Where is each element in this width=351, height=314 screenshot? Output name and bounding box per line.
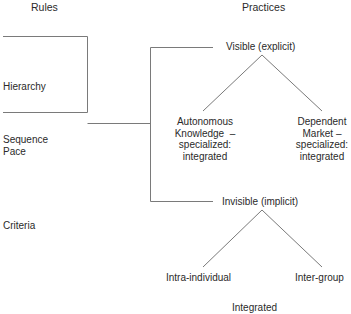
- rules-header: Rules: [31, 2, 58, 14]
- autonomous-line1: Autonomous: [175, 116, 236, 128]
- invisible-implicit-label: Invisible (implicit): [222, 196, 298, 208]
- practices-header: Practices: [242, 2, 285, 14]
- rule-criteria: Criteria: [3, 220, 35, 232]
- visible-left-branch: [203, 55, 262, 111]
- inter-group-label: Inter-group: [295, 272, 344, 284]
- dependent-line2: Market –: [296, 128, 348, 140]
- autonomous-knowledge-label: Autonomous Knowledge – specialized: inte…: [175, 116, 236, 162]
- rule-hierarchy: Hierarchy: [3, 81, 46, 93]
- dependent-line1: Dependent: [296, 116, 348, 128]
- rule-sequence: Sequence: [3, 134, 48, 146]
- visible-right-branch: [262, 55, 322, 111]
- integrated-partial-label: Integrated: [232, 302, 277, 314]
- invisible-left-branch: [203, 210, 262, 267]
- dependent-line3: specialized:: [296, 139, 348, 151]
- dependent-line4: integrated: [296, 151, 348, 163]
- intra-individual-label: Intra-individual: [166, 272, 231, 284]
- autonomous-line2: Knowledge –: [175, 128, 236, 140]
- autonomous-line3: specialized:: [175, 139, 236, 151]
- autonomous-line4: integrated: [175, 151, 236, 163]
- dependent-market-label: Dependent Market – specialized: integrat…: [296, 116, 348, 162]
- invisible-right-branch: [262, 210, 322, 267]
- rule-pace: Pace: [3, 146, 26, 158]
- visible-explicit-label: Visible (explicit): [226, 41, 295, 53]
